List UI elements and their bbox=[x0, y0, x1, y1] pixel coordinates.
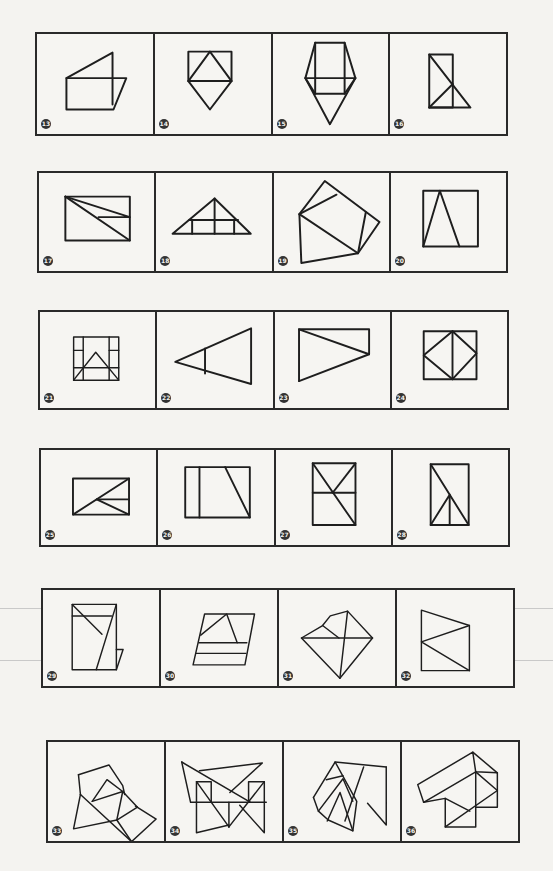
figure-25[interactable]: 25 bbox=[41, 450, 158, 545]
figure-34[interactable]: 34 bbox=[166, 742, 284, 841]
figure-21-drawing bbox=[40, 312, 155, 408]
figure-23-drawing bbox=[275, 312, 390, 408]
figure-13[interactable]: 13 bbox=[37, 34, 155, 134]
figure-19-drawing bbox=[274, 173, 389, 271]
figure-number-badge: 35 bbox=[288, 826, 298, 836]
figure-17-drawing bbox=[39, 173, 154, 271]
figure-number-badge: 24 bbox=[396, 393, 406, 403]
figure-36-drawing bbox=[402, 742, 518, 841]
figure-36[interactable]: 36 bbox=[402, 742, 518, 841]
figure-number-badge: 25 bbox=[45, 530, 55, 540]
figure-29-drawing bbox=[43, 590, 159, 686]
figure-14[interactable]: 14 bbox=[155, 34, 273, 134]
figure-34-drawing bbox=[166, 742, 282, 841]
figure-32-drawing bbox=[397, 590, 513, 686]
figure-15-drawing bbox=[273, 34, 389, 134]
figure-15[interactable]: 15 bbox=[273, 34, 391, 134]
figure-27[interactable]: 27 bbox=[276, 450, 393, 545]
figure-number-badge: 17 bbox=[43, 256, 53, 266]
figure-32[interactable]: 32 bbox=[397, 590, 513, 686]
figure-number-badge: 19 bbox=[278, 256, 288, 266]
figure-35-drawing bbox=[284, 742, 400, 841]
figure-row-3: 21 22 23 24 bbox=[38, 310, 509, 410]
figure-19[interactable]: 19 bbox=[274, 173, 391, 271]
figure-21[interactable]: 21 bbox=[40, 312, 157, 408]
figure-row-5: 29 30 31 32 bbox=[41, 588, 515, 688]
figure-number-badge: 32 bbox=[401, 671, 411, 681]
figure-20[interactable]: 20 bbox=[391, 173, 506, 271]
figure-26-drawing bbox=[158, 450, 273, 545]
figure-number-badge: 33 bbox=[52, 826, 62, 836]
figure-row-4: 25 26 27 28 bbox=[39, 448, 510, 547]
figure-30[interactable]: 30 bbox=[161, 590, 279, 686]
figure-number-badge: 15 bbox=[277, 119, 287, 129]
figure-number-badge: 28 bbox=[397, 530, 407, 540]
figure-29[interactable]: 29 bbox=[43, 590, 161, 686]
figure-33[interactable]: 33 bbox=[48, 742, 166, 841]
figure-31[interactable]: 31 bbox=[279, 590, 397, 686]
figure-row-6: 33 34 35 bbox=[46, 740, 520, 843]
figure-24[interactable]: 24 bbox=[392, 312, 507, 408]
figure-number-badge: 36 bbox=[406, 826, 416, 836]
figure-22-drawing bbox=[157, 312, 272, 408]
figure-number-badge: 21 bbox=[44, 393, 54, 403]
figure-row-1: 13 14 15 16 bbox=[35, 32, 508, 136]
figure-18[interactable]: 18 bbox=[156, 173, 273, 271]
figure-14-drawing bbox=[155, 34, 271, 134]
figure-20-drawing bbox=[391, 173, 506, 271]
figure-30-drawing bbox=[161, 590, 277, 686]
figure-28[interactable]: 28 bbox=[393, 450, 508, 545]
figure-35[interactable]: 35 bbox=[284, 742, 402, 841]
figure-number-badge: 14 bbox=[159, 119, 169, 129]
figure-number-badge: 29 bbox=[47, 671, 57, 681]
figure-16-drawing bbox=[390, 34, 506, 134]
figure-16[interactable]: 16 bbox=[390, 34, 506, 134]
figure-row-2: 17 18 19 20 bbox=[37, 171, 508, 273]
figure-number-badge: 30 bbox=[165, 671, 175, 681]
figure-31-drawing bbox=[279, 590, 395, 686]
figure-23[interactable]: 23 bbox=[275, 312, 392, 408]
figure-number-badge: 20 bbox=[395, 256, 405, 266]
figure-number-badge: 34 bbox=[170, 826, 180, 836]
figure-22[interactable]: 22 bbox=[157, 312, 274, 408]
figure-18-drawing bbox=[156, 173, 271, 271]
figure-13-drawing bbox=[37, 34, 153, 134]
figure-25-drawing bbox=[41, 450, 156, 545]
figure-number-badge: 23 bbox=[279, 393, 289, 403]
figure-number-badge: 13 bbox=[41, 119, 51, 129]
figure-17[interactable]: 17 bbox=[39, 173, 156, 271]
figure-33-drawing bbox=[48, 742, 164, 841]
figure-number-badge: 27 bbox=[280, 530, 290, 540]
figure-24-drawing bbox=[392, 312, 507, 408]
figure-28-drawing bbox=[393, 450, 508, 545]
figure-number-badge: 31 bbox=[283, 671, 293, 681]
figure-26[interactable]: 26 bbox=[158, 450, 275, 545]
figure-27-drawing bbox=[276, 450, 391, 545]
